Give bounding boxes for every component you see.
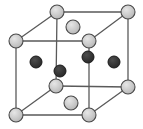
cube-edge-back-bottom	[56, 86, 128, 87]
dark-atom-interior-right	[108, 56, 120, 68]
light-atom-corner-front-top-right	[82, 34, 96, 48]
dark-atom-interior-lower-middle	[54, 65, 66, 77]
dark-atom-interior-left	[30, 56, 42, 68]
unit-cell-svg	[0, 0, 143, 129]
light-atom-corner-back-top-right	[121, 5, 135, 19]
light-atom-face-center-bottom	[64, 96, 78, 110]
light-atom-corner-front-bottom-right	[82, 108, 96, 122]
light-atom-face-center-top	[66, 20, 80, 34]
light-atom-corner-back-bottom-right	[121, 80, 135, 94]
light-atom-corner-back-top-left	[50, 5, 64, 19]
light-atom-corner-back-bottom-left	[49, 79, 63, 93]
light-atom-corner-front-bottom-left	[9, 108, 23, 122]
crystal-lattice-figure	[0, 0, 143, 129]
dark-atoms	[30, 51, 120, 77]
dark-atom-interior-upper-middle	[82, 51, 94, 63]
light-atom-corner-front-top-left	[9, 34, 23, 48]
